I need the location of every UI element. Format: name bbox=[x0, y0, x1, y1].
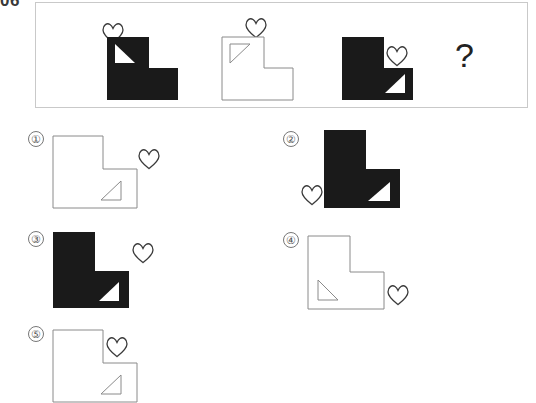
option-figure-5[interactable] bbox=[45, 322, 175, 403]
heart-icon-option-1 bbox=[139, 150, 159, 169]
option-label-3[interactable]: ③ bbox=[28, 231, 44, 247]
option-label-1[interactable]: ① bbox=[28, 131, 44, 147]
option-label-4[interactable]: ④ bbox=[283, 232, 299, 248]
stem-figure-2 bbox=[205, 8, 315, 104]
option-label-2[interactable]: ② bbox=[283, 131, 299, 147]
heart-icon-option-2 bbox=[302, 186, 322, 205]
stem-figure-3 bbox=[325, 8, 435, 104]
heart-icon-option-4 bbox=[388, 286, 408, 305]
answer-placeholder-question-mark: ? bbox=[455, 38, 474, 72]
l-shape-option-1 bbox=[53, 136, 137, 208]
stem-figure-1 bbox=[90, 8, 200, 104]
heart-icon-option-5 bbox=[107, 338, 127, 357]
option-figure-1[interactable] bbox=[45, 128, 175, 218]
option-figure-2[interactable] bbox=[300, 124, 430, 219]
option-figure-3[interactable] bbox=[45, 226, 175, 318]
heart-icon-stem-3 bbox=[387, 47, 407, 66]
l-shape-stem-1 bbox=[107, 37, 178, 100]
option-label-5[interactable]: ⑤ bbox=[28, 326, 44, 342]
heart-icon-option-3 bbox=[133, 244, 153, 263]
heart-icon-stem-2 bbox=[246, 19, 266, 38]
option-figure-4[interactable] bbox=[300, 228, 430, 323]
question-number: 06 bbox=[0, 0, 34, 11]
